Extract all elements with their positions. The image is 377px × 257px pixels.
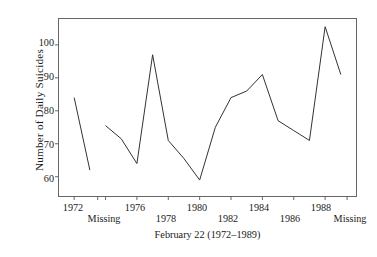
plot-area — [0, 0, 377, 257]
x-axis-ticks — [74, 197, 347, 201]
data-line-segment-2 — [106, 27, 341, 180]
plot-frame — [59, 19, 357, 197]
chart-figure: Number of Daily Suicides 100 90 80 70 60… — [0, 0, 377, 257]
data-line-segment-1 — [74, 98, 90, 171]
data-series-group — [74, 27, 341, 180]
y-axis-ticks — [55, 45, 59, 177]
